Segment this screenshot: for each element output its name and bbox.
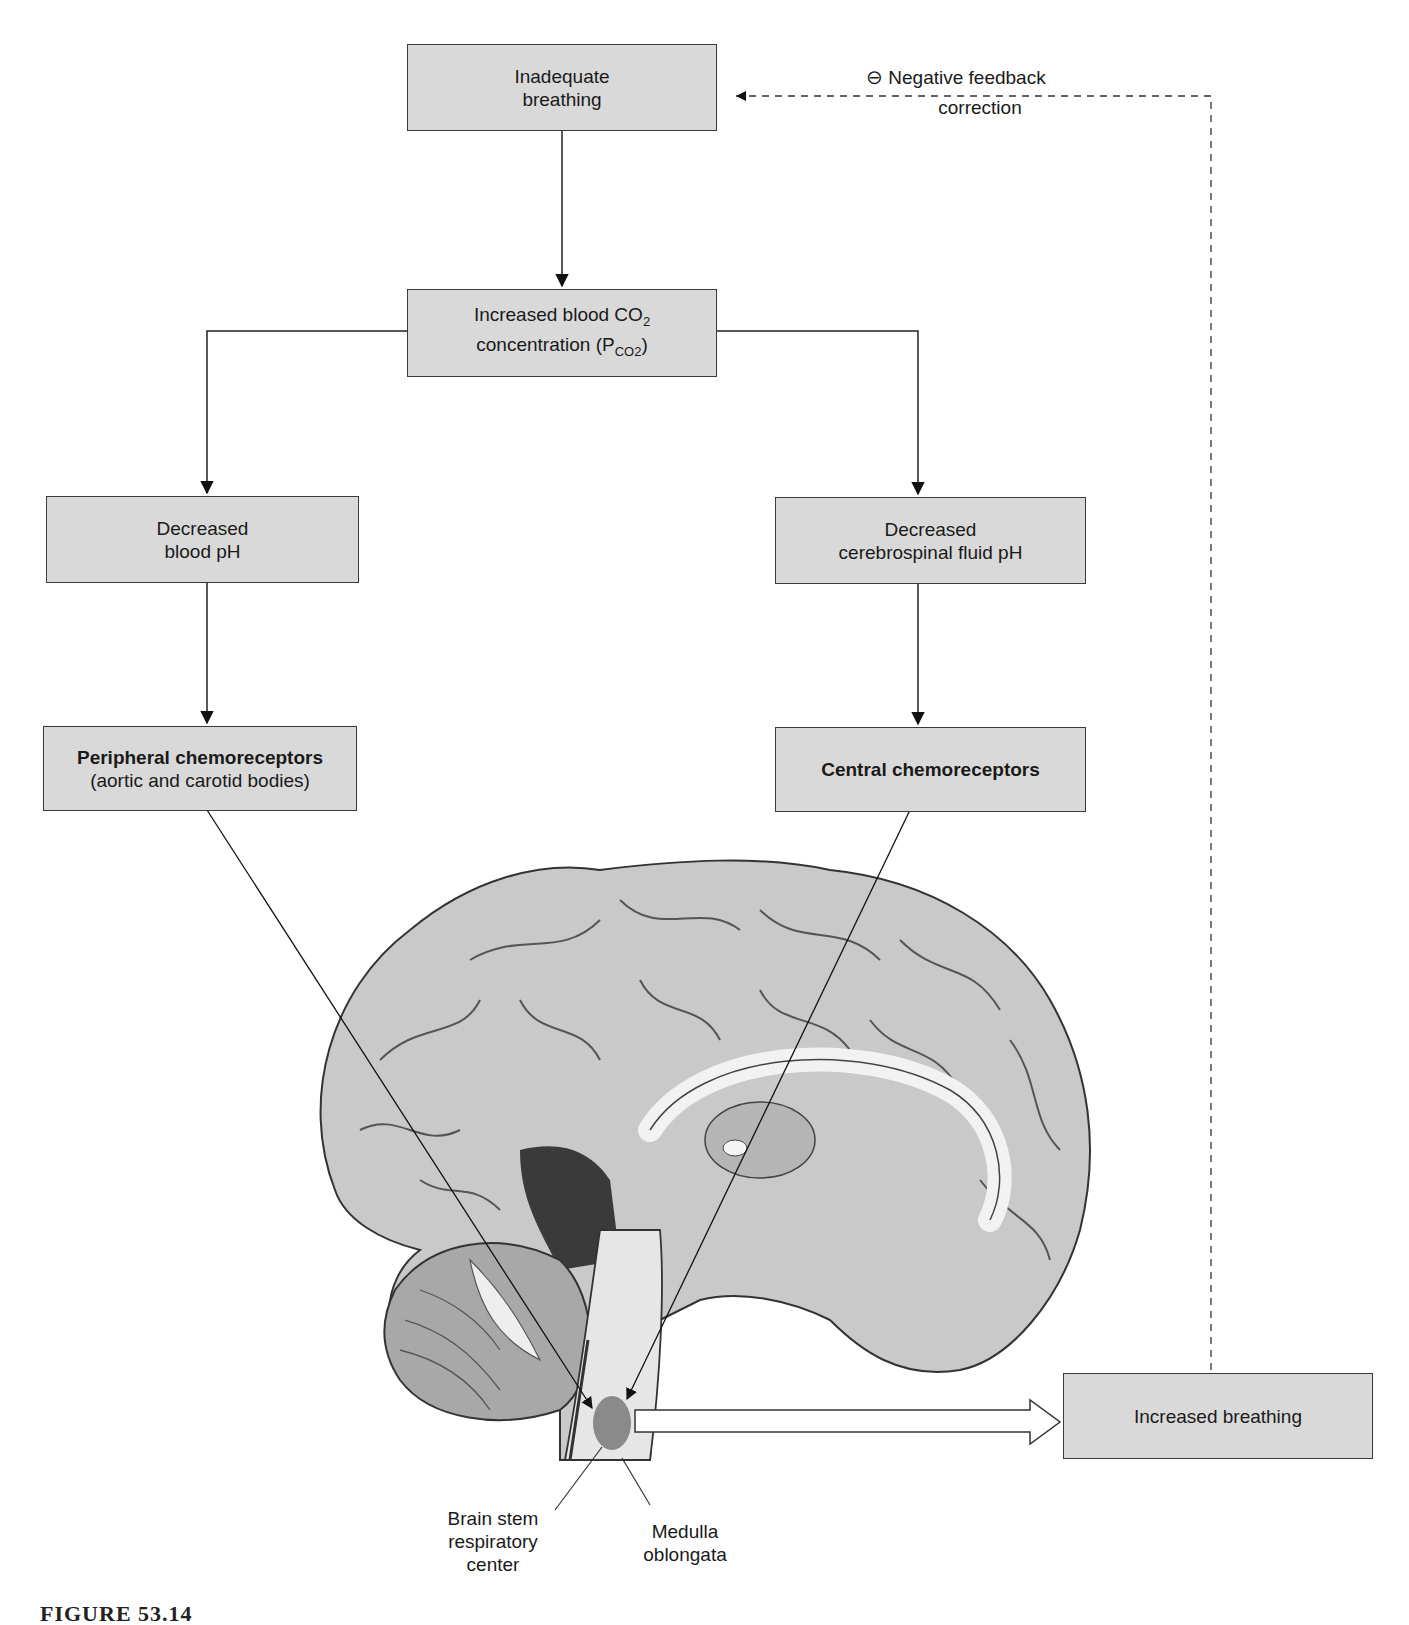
label-line: center	[418, 1553, 568, 1576]
node-text: Increased breathing	[1134, 1405, 1302, 1428]
arrow-co2-to-blood-ph	[207, 331, 407, 493]
node-text: breathing	[522, 88, 601, 111]
co2-label: Increased blood CO	[474, 304, 643, 325]
pco2-label: concentration (P	[476, 334, 614, 355]
node-text: Inadequate	[514, 65, 609, 88]
paren: )	[641, 334, 647, 355]
subscript: CO2	[615, 344, 642, 359]
respiratory-center-marker	[593, 1396, 631, 1450]
feedback-label: ⊖ Negative feedback	[866, 66, 1086, 89]
node-decreased-blood-ph: Decreased blood pH	[46, 496, 359, 583]
node-text-bold: Peripheral chemoreceptors	[77, 746, 323, 769]
figure-caption: FIGURE 53.14	[40, 1601, 193, 1625]
subscript: 2	[643, 314, 650, 329]
node-increased-co2: Increased blood CO2 concentration (PCO2)	[407, 289, 717, 377]
feedback-text-line2: correction	[920, 96, 1040, 119]
node-peripheral-chemoreceptors: Peripheral chemoreceptors (aortic and ca…	[43, 726, 357, 811]
node-text: cerebrospinal fluid pH	[839, 541, 1023, 564]
node-increased-breathing: Increased breathing	[1063, 1373, 1373, 1459]
label-line: respiratory	[418, 1530, 568, 1553]
node-inadequate-breathing: Inadequate breathing	[407, 44, 717, 131]
arrow-co2-to-csf-ph	[717, 331, 918, 494]
minus-circle-icon: ⊖	[866, 66, 883, 88]
hollow-arrow-to-increased-breathing	[635, 1400, 1060, 1444]
node-central-chemoreceptors: Central chemoreceptors	[775, 727, 1086, 812]
label-line: oblongata	[620, 1543, 750, 1566]
node-decreased-csf-ph: Decreased cerebrospinal fluid pH	[775, 497, 1086, 584]
node-text-line1: Increased blood CO2	[474, 303, 650, 333]
label-brain-stem-respiratory-center: Brain stem respiratory center	[418, 1507, 568, 1576]
node-text: Decreased	[157, 517, 249, 540]
label-medulla-oblongata: Medulla oblongata	[620, 1520, 750, 1566]
node-text-line2: concentration (PCO2)	[476, 333, 647, 363]
leader-medulla	[622, 1458, 650, 1505]
brain-illustration	[321, 861, 1090, 1460]
node-text: blood pH	[164, 540, 240, 563]
feedback-text-line1: Negative feedback	[888, 67, 1045, 88]
label-line: Brain stem	[418, 1507, 568, 1530]
label-line: Medulla	[620, 1520, 750, 1543]
node-text-bold: Central chemoreceptors	[821, 758, 1040, 781]
node-text: (aortic and carotid bodies)	[90, 769, 310, 792]
node-text: Decreased	[885, 518, 977, 541]
